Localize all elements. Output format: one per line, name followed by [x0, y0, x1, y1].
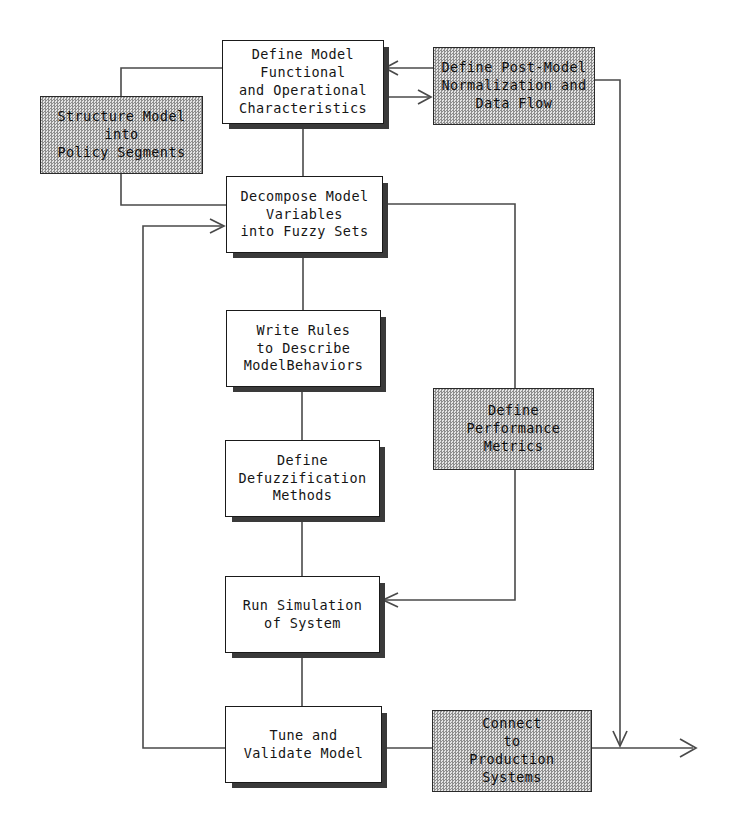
node-structure-model[interactable]: Structure Model into Policy Segments: [40, 96, 203, 174]
edge-structure-to-decompose: [121, 174, 226, 205]
edge-decompose-to-metrics: [383, 204, 515, 388]
node-defuzzification-label: Define Defuzzification Methods: [239, 452, 367, 505]
edge-define-to-structure: [121, 68, 222, 96]
node-decompose-model[interactable]: Decompose Model Variables into Fuzzy Set…: [226, 176, 383, 253]
node-connect-production[interactable]: Connect to Production Systems: [432, 710, 592, 792]
node-define-model[interactable]: Define Model Functional and Operational …: [222, 40, 384, 124]
edge-connect-to-output: [592, 739, 696, 757]
node-run-simulation[interactable]: Run Simulation of System: [225, 576, 380, 653]
edge-post-to-define: [385, 61, 433, 75]
node-write-rules-label: Write Rules to Describe ModelBehaviors: [244, 322, 363, 375]
node-tune-validate[interactable]: Tune and Validate Model: [225, 706, 382, 783]
node-tune-validate-label: Tune and Validate Model: [244, 727, 363, 763]
edge-define-to-post: [384, 90, 431, 104]
node-structure-model-label: Structure Model into Policy Segments: [58, 108, 186, 161]
node-decompose-model-label: Decompose Model Variables into Fuzzy Set…: [241, 188, 369, 241]
node-run-simulation-label: Run Simulation of System: [243, 597, 362, 633]
node-write-rules[interactable]: Write Rules to Describe ModelBehaviors: [226, 310, 381, 387]
node-define-post-model-label: Define Post-Model Normalization and Data…: [442, 59, 587, 112]
edge-tune-feedback-decompose: [143, 219, 225, 748]
node-defuzzification[interactable]: Define Defuzzification Methods: [225, 440, 380, 517]
flowchart-canvas: Define Model Functional and Operational …: [0, 0, 734, 839]
node-connect-production-label: Connect to Production Systems: [469, 715, 554, 786]
node-define-model-label: Define Model Functional and Operational …: [239, 46, 367, 117]
node-define-post-model[interactable]: Define Post-Model Normalization and Data…: [433, 47, 595, 125]
edge-post-model-down-to-output: [595, 80, 627, 746]
node-performance-metrics[interactable]: Define Performance Metrics: [433, 388, 594, 470]
edge-metrics-to-run: [383, 470, 515, 607]
node-performance-metrics-label: Define Performance Metrics: [467, 402, 561, 455]
